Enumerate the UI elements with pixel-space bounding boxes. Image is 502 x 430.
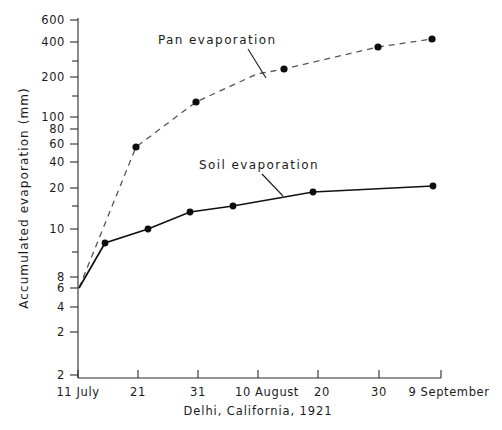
y-axis-tick-labels: 600 400 200 100 80 60 40 20 10 8 6 4 2 2 [41,13,65,382]
x-tick-label: 20 [314,385,330,399]
y-tick-label: 10 [49,222,65,236]
y-tick-label: 40 [49,155,65,169]
data-point [102,240,109,247]
soil-evaporation-label: Soil evaporation [199,158,319,172]
data-point [192,98,199,105]
data-point [430,183,437,190]
x-axis-tick-labels: 11 July 21 31 10 August 20 30 9 Septembe… [56,385,489,399]
pan-evaporation-label: Pan evaporation [158,33,277,47]
y-tick-label: 6 [57,281,65,295]
y-tick-label: 2 [57,325,65,339]
data-point [280,65,287,72]
y-tick-label: 600 [41,13,65,27]
data-point [132,143,139,150]
soil-evaporation-leader-line [262,174,283,196]
y-tick-label: 20 [49,181,65,195]
evaporation-chart: 600 400 200 100 80 60 40 20 10 8 6 4 2 2… [0,0,502,430]
x-tick-label: 31 [190,385,206,399]
y-tick-label: 4 [57,300,65,314]
data-point [428,35,435,42]
x-tick-label: 9 September [408,385,489,399]
chart-canvas: 600 400 200 100 80 60 40 20 10 8 6 4 2 2… [0,0,502,430]
y-axis-title: Accumulated evaporation (mm) [17,87,31,309]
y-tick-label-two: 2 [57,368,65,382]
y-tick-label: 60 [49,137,65,151]
x-axis-ticks [78,370,441,378]
x-tick-label: 11 July [56,385,99,399]
series-soil-evaporation [79,183,436,288]
x-tick-label: 21 [130,385,146,399]
pan-evaporation-leader-line [248,49,266,78]
chart-caption: Delhi, California, 1921 [184,404,333,418]
y-tick-label: 200 [41,70,65,84]
soil-evaporation-line [79,186,433,288]
x-tick-label: 30 [371,385,387,399]
data-point [145,226,152,233]
data-point [374,43,381,50]
y-axis-ticks [70,20,78,375]
y-tick-label: 400 [41,35,65,49]
x-tick-label: 10 August [235,385,299,399]
y-tick-label: 80 [49,122,65,136]
data-point [310,189,317,196]
data-point [230,203,237,210]
data-point [187,209,194,216]
